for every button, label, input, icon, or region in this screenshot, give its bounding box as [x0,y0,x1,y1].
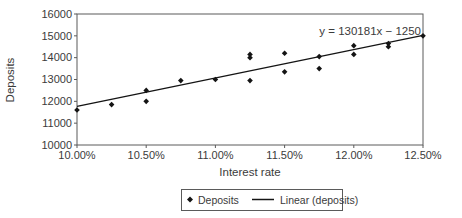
legend: Deposits Linear (deposits) [182,190,359,211]
scatter-point [420,33,426,39]
scatter-point [178,78,184,84]
y-tick-label: 11000 [42,117,72,129]
scatter-point [74,107,80,113]
x-axis-title: Interest rate [219,166,280,178]
trendline-equation-label: y = 130181x − 1250 [319,25,421,37]
x-tick-label: 12.00% [335,149,373,161]
scatter-point [316,66,322,72]
scatter-point [351,43,357,49]
y-tick-label: 14000 [41,51,72,63]
x-tick-label: 11.50% [266,149,303,161]
y-tick-label: 13000 [41,73,72,85]
chart-figure: 1000011000120001300014000150001600010.00… [0,0,462,218]
y-axis-title: Deposits [4,57,16,102]
scatter-point [143,99,149,105]
y-tick-label: 12000 [41,95,72,107]
x-tick-label: 11.00% [197,149,234,161]
legend-label-deposits: Deposits [198,194,239,206]
x-tick-label: 10.00% [58,149,96,161]
y-tick-label: 15000 [41,30,72,42]
y-tick-label: 16000 [41,8,72,20]
scatter-point [109,102,115,108]
scatter-point [282,69,288,75]
scatter-point [247,52,253,58]
x-tick-label: 12.50% [404,149,442,161]
scatter-point [351,52,357,58]
scatter-point [247,78,253,84]
trendline [77,35,423,106]
x-tick-label: 10.50% [128,149,166,161]
scatter-point [316,54,322,60]
scatter-point [282,51,288,57]
deposits-vs-interest-rate-chart: 1000011000120001300014000150001600010.00… [0,0,462,218]
legend-label-linear-deposits: Linear (deposits) [280,194,358,206]
